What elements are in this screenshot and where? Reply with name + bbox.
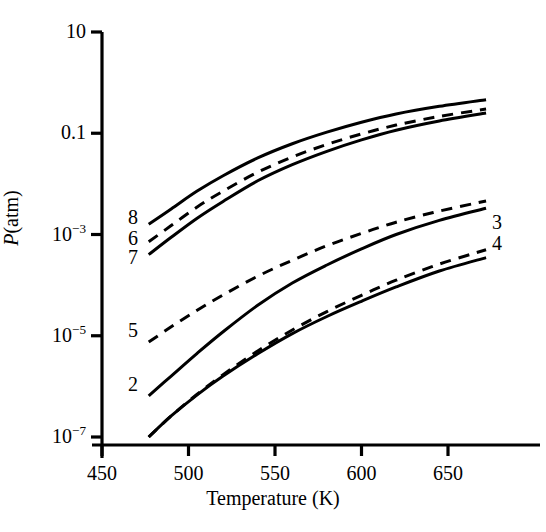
y-tick-label-2: 10−3 bbox=[52, 224, 86, 244]
y-tick-mantissa: 10 bbox=[52, 223, 72, 245]
y-axis-title: P(atm) bbox=[0, 190, 23, 246]
curves-group bbox=[149, 100, 486, 437]
curve-label-7: 7 bbox=[128, 247, 138, 267]
y-tick-mantissa: 10 bbox=[66, 20, 86, 42]
y-tick-label-1: 0.1 bbox=[61, 122, 86, 142]
curve-label-8: 8 bbox=[128, 207, 138, 227]
x-axis-title: Temperature (K) bbox=[0, 487, 546, 510]
x-tick-label-3: 600 bbox=[332, 463, 392, 483]
figure-container: P(atm) Temperature (K) 100.110−310−510−7… bbox=[0, 0, 546, 532]
curve-label-5: 5 bbox=[128, 320, 138, 340]
curve-label-4: 4 bbox=[492, 233, 502, 253]
y-tick-exponent: −5 bbox=[72, 322, 86, 337]
curve-4 bbox=[149, 258, 486, 437]
x-tick-label-1: 500 bbox=[159, 463, 219, 483]
axes-group bbox=[91, 32, 540, 458]
y-axis-title-symbol: P bbox=[0, 234, 22, 246]
y-axis-title-units: (atm) bbox=[0, 190, 22, 233]
x-tick-label-2: 550 bbox=[245, 463, 305, 483]
y-tick-label-0: 10 bbox=[66, 21, 86, 41]
x-tick-label-0: 450 bbox=[72, 463, 132, 483]
y-tick-mantissa: 0.1 bbox=[61, 121, 86, 143]
curve-3 bbox=[149, 250, 486, 437]
y-tick-label-3: 10−5 bbox=[52, 325, 86, 345]
x-tick-label-4: 650 bbox=[418, 463, 478, 483]
y-tick-exponent: −3 bbox=[72, 221, 86, 236]
y-tick-mantissa: 10 bbox=[52, 324, 72, 346]
curve-label-3: 3 bbox=[492, 212, 502, 232]
curve-label-6: 6 bbox=[128, 228, 138, 248]
y-tick-mantissa: 10 bbox=[52, 425, 72, 447]
curve-2 bbox=[149, 208, 486, 396]
chart-plot-area bbox=[0, 0, 546, 532]
y-tick-label-4: 10−7 bbox=[52, 426, 86, 446]
y-tick-exponent: −7 bbox=[72, 423, 86, 438]
curve-label-2: 2 bbox=[128, 374, 138, 394]
